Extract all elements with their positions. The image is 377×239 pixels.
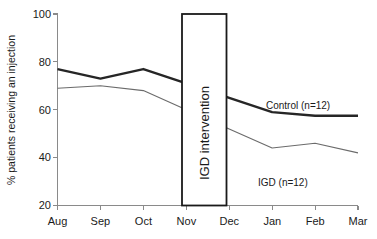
line-chart: % patients receiving an injection 100 80… bbox=[0, 0, 377, 239]
y-axis-title: % patients receiving an injection bbox=[5, 35, 17, 185]
x-tick-label-jan: Jan bbox=[263, 215, 281, 227]
x-tick-label-oct: Oct bbox=[135, 215, 152, 227]
x-tick-label-mar: Mar bbox=[349, 215, 368, 227]
igd-series-label: IGD (n=12) bbox=[258, 177, 308, 188]
y-tick-label-100: 100 bbox=[33, 8, 51, 20]
x-tick-label-feb: Feb bbox=[306, 215, 325, 227]
y-tick-label-20: 20 bbox=[39, 199, 51, 211]
x-tick-label-sep: Sep bbox=[91, 215, 111, 227]
y-tick-label-60: 60 bbox=[39, 104, 51, 116]
x-tick-label-aug: Aug bbox=[48, 215, 68, 227]
x-tick-label-nov: Nov bbox=[177, 215, 197, 227]
y-axis bbox=[53, 14, 58, 206]
intervention-box-label: IGD intervention bbox=[197, 86, 212, 180]
x-tick-label-dec: Dec bbox=[220, 215, 240, 227]
control-series-label: Control (n=12) bbox=[266, 100, 330, 111]
chart-container: % patients receiving an injection 100 80… bbox=[0, 0, 377, 239]
y-tick-label-40: 40 bbox=[39, 151, 51, 163]
y-tick-label-80: 80 bbox=[39, 56, 51, 68]
